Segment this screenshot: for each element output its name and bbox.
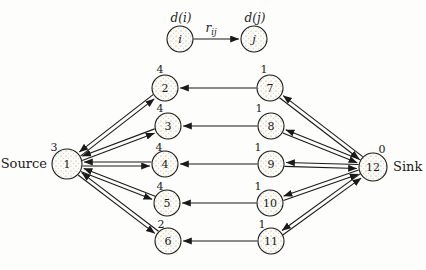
legend-node-j: j — [241, 26, 267, 52]
edges — [78, 88, 363, 241]
node-7-distance: 1 — [261, 63, 268, 76]
edge-12-8-forward — [286, 130, 360, 160]
edge-12-8-reverse — [283, 133, 357, 163]
node-4-label: 4 — [162, 158, 169, 171]
legend-d-j: d(j) — [245, 11, 266, 25]
node-10-distance: 1 — [255, 180, 262, 193]
node-9: 91 — [255, 141, 285, 177]
node-6-label: 6 — [165, 235, 172, 248]
source-label: Source — [1, 156, 48, 171]
node-6-distance: 2 — [158, 218, 165, 231]
node-10: 101 — [255, 180, 284, 216]
node-2: 24 — [152, 63, 178, 101]
node-8-label: 8 — [268, 120, 275, 133]
edge-12-7-forward — [283, 96, 362, 157]
node-1: 13Source — [1, 141, 82, 179]
legend-node-i-label: i — [178, 32, 182, 46]
edge-12-7-reverse — [279, 98, 358, 159]
node-6: 62 — [155, 218, 181, 254]
edge-12-10-reverse — [283, 174, 358, 200]
node-3: 34 — [155, 102, 181, 139]
legend-node-i: i — [167, 26, 193, 52]
node-11: 111 — [258, 218, 284, 254]
edge-1-3-reverse — [82, 129, 154, 156]
edge-12-11-forward — [282, 174, 360, 231]
node-12-distance: 0 — [379, 143, 386, 156]
node-8: 81 — [256, 102, 285, 139]
edge-12-9-forward — [286, 162, 358, 164]
node-9-distance: 1 — [255, 141, 262, 154]
legend-d-i: d(i) — [171, 11, 192, 25]
edge-1-6-reverse — [82, 173, 159, 231]
edge-12-9-reverse — [284, 166, 356, 168]
node-5-label: 5 — [164, 197, 171, 210]
node-8-distance: 1 — [256, 102, 263, 115]
figure-page: 13Source2434445462718191101111120Sinkijd… — [0, 0, 426, 270]
node-4: 44 — [152, 141, 178, 177]
legend: ijd(i)d(j)rij — [167, 11, 267, 52]
node-12: 120Sink — [359, 143, 422, 181]
node-5: 54 — [154, 180, 180, 216]
node-1-distance: 3 — [51, 141, 58, 154]
node-12-label: 12 — [366, 161, 380, 174]
node-4-distance: 4 — [156, 141, 163, 154]
edge-1-6-forward — [78, 175, 155, 233]
legend-r-label: rij — [205, 21, 216, 37]
node-1-label: 1 — [64, 158, 71, 171]
node-3-label: 3 — [165, 120, 172, 133]
node-9-label: 9 — [268, 158, 275, 171]
sink-label: Sink — [393, 159, 422, 174]
node-3-distance: 4 — [157, 102, 164, 115]
node-2-distance: 4 — [157, 63, 164, 76]
node-7: 71 — [257, 63, 283, 101]
node-11-distance: 1 — [259, 218, 266, 231]
network-flow-figure: 13Source2434445462718191101111120Sinkijd… — [0, 0, 426, 270]
node-11-label: 11 — [264, 235, 278, 248]
nodes: 13Source2434445462718191101111120Sink — [1, 63, 423, 254]
node-2-label: 2 — [162, 82, 169, 95]
node-10-label: 10 — [263, 197, 277, 210]
node-5-distance: 4 — [157, 180, 164, 193]
node-7-label: 7 — [267, 82, 274, 95]
